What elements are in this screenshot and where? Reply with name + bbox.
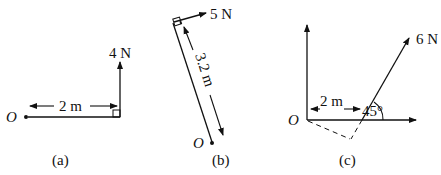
panel-caption: (c) [339,152,356,169]
panel-b: 5 N 3.2 m O (b) [173,6,232,169]
distance-label: 2 m [59,98,82,114]
pivot-point [24,115,28,119]
distance-label: 3.2 m [192,51,218,89]
force-label: 4 N [109,45,131,61]
line-of-action-dashed [351,120,362,139]
origin-label: O [288,112,299,128]
panel-c: O 6 N 2 m 45° (c) [288,25,438,169]
distance-arrow-bottom [210,95,223,135]
distance-label: 2 m [320,93,343,109]
panel-caption: (b) [212,152,230,169]
force-label: 6 N [416,31,438,47]
distance-arrow-top [184,27,193,50]
pivot-point [210,141,214,145]
right-angle-mark [113,110,120,117]
torque-diagram: O 4 N 2 m (a) 5 N 3.2 m O (b) O 6 N 2 m … [0,0,441,175]
force-label: 5 N [210,6,232,22]
angle-label: 45° [362,103,383,119]
origin-label: O [6,109,17,125]
origin-label: O [193,135,204,151]
panel-caption: (a) [52,152,69,169]
panel-a: O 4 N 2 m (a) [6,45,131,169]
moment-arm-dashed [308,121,350,139]
